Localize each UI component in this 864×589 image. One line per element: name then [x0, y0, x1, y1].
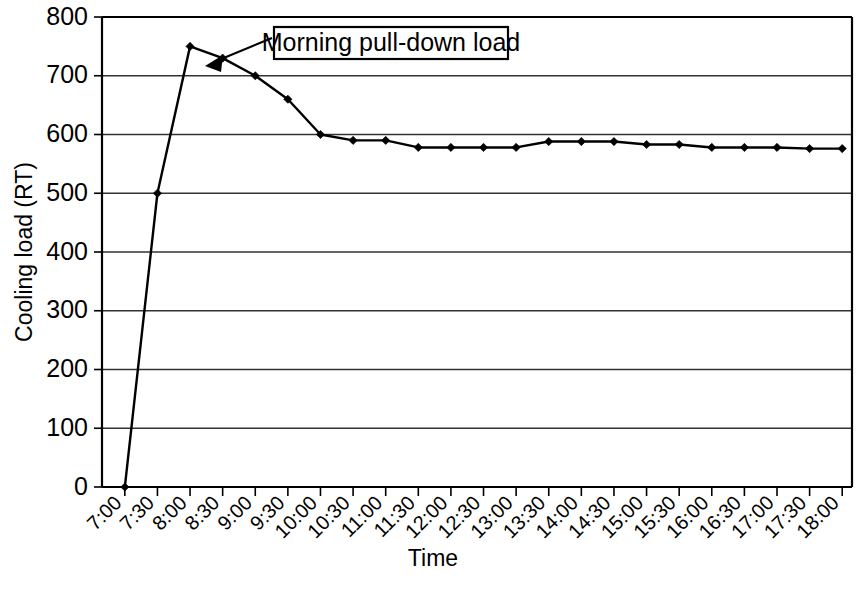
data-point-marker: [773, 143, 781, 151]
data-point-marker: [642, 140, 650, 148]
y-tick-label: 600: [46, 119, 88, 147]
y-tick-label: 0: [74, 472, 88, 500]
data-series-line: [125, 46, 842, 487]
data-point-marker: [708, 143, 716, 151]
data-point-marker: [382, 136, 390, 144]
data-point-marker: [186, 42, 194, 50]
y-tick-label: 800: [46, 2, 88, 30]
y-tick-label: 100: [46, 413, 88, 441]
x-tick-labels: 7:007:308:008:309:009:3010:0010:3011:001…: [83, 491, 843, 542]
annotation-arrow-head: [205, 55, 223, 72]
annotation-label: Morning pull-down load: [262, 28, 520, 56]
y-tick-label: 200: [46, 354, 88, 382]
data-point-marker: [349, 136, 357, 144]
data-point-marker: [806, 145, 814, 153]
data-point-marker: [153, 189, 161, 197]
data-point-marker: [838, 145, 846, 153]
data-point-marker: [479, 143, 487, 151]
data-point-marker: [414, 143, 422, 151]
data-point-marker: [610, 137, 618, 145]
x-axis-ticks: [125, 487, 842, 496]
y-axis-title: Cooling load (RT): [11, 162, 37, 342]
gridlines: [102, 76, 852, 429]
data-point-marker: [545, 137, 553, 145]
x-tick-label: 9:00: [213, 491, 256, 534]
data-point-marker: [512, 143, 520, 151]
x-tick-label: 8:00: [148, 491, 191, 534]
y-tick-label: 400: [46, 237, 88, 265]
data-point-marker: [577, 137, 585, 145]
chart-canvas: 0100200300400500600700800 7:007:308:008:…: [0, 0, 864, 589]
data-point-marker: [675, 140, 683, 148]
data-point-marker: [740, 143, 748, 151]
x-axis-title: Time: [408, 545, 458, 571]
data-series-markers: [121, 42, 847, 491]
annotation-morning-pull-down-load: Morning pull-down load: [205, 27, 520, 72]
x-tick-label: 7:00: [83, 491, 126, 534]
y-tick-label: 700: [46, 60, 88, 88]
y-tick-labels: 0100200300400500600700800: [46, 2, 88, 500]
y-tick-label: 500: [46, 178, 88, 206]
x-tick-label: 8:30: [180, 491, 223, 534]
data-point-marker: [447, 143, 455, 151]
cooling-load-chart: 0100200300400500600700800 7:007:308:008:…: [0, 0, 864, 589]
data-point-marker: [121, 483, 129, 491]
y-tick-label: 300: [46, 295, 88, 323]
x-tick-label: 7:30: [115, 491, 158, 534]
series-path: [125, 46, 842, 487]
y-axis-ticks: [94, 17, 102, 487]
